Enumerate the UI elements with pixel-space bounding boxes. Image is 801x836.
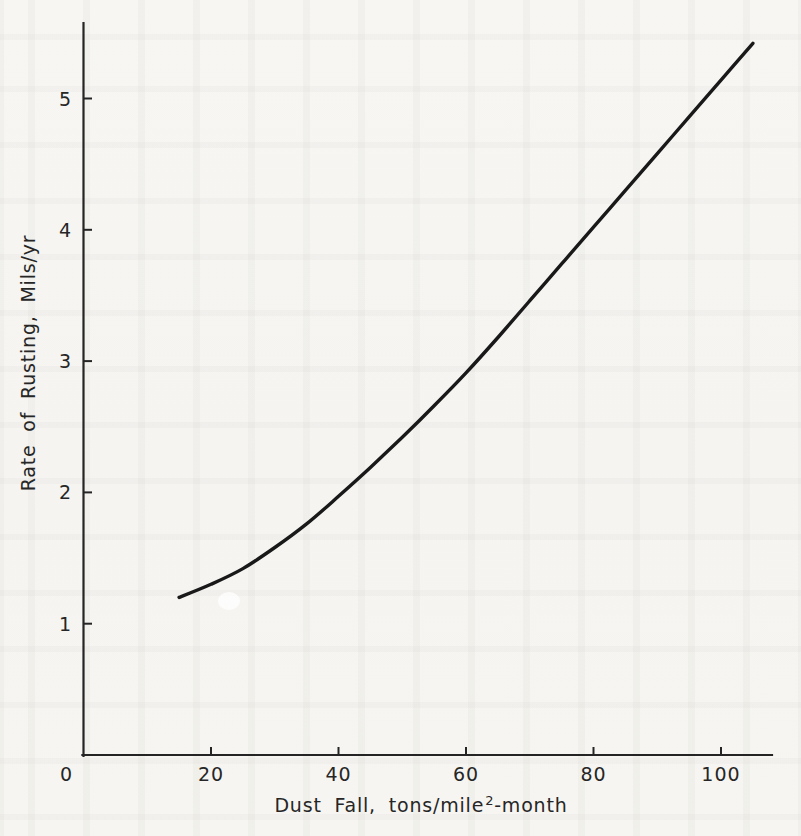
x-tick-label: 60 [453,763,479,785]
x-tick-label: 40 [325,763,351,785]
y-tick-label: 2 [59,481,72,503]
x-axis-ticks: 020406080100 [60,747,741,785]
x-axis-title-suffix: -month [494,794,567,816]
y-tick-label: 4 [59,219,72,241]
data-series [179,43,753,597]
rusting-rate-curve [179,43,753,597]
x-axis-title-text: Dust Fall, tons/mile [274,794,484,816]
rusting-vs-dustfall-chart: 020406080100 12345 Dust Fall, tons/mile2… [0,0,801,836]
y-tick-label: 1 [59,613,72,635]
y-tick-label: 5 [59,88,72,110]
y-axis-ticks: 12345 [59,88,92,635]
x-axis-title: Dust Fall, tons/mile2-month [274,793,567,816]
x-tick-label: 0 [60,763,73,785]
x-tick-label: 100 [701,763,740,785]
x-tick-label: 20 [198,763,224,785]
x-axis-title-superscript: 2 [485,793,494,808]
x-tick-label: 80 [580,763,606,785]
y-axis-title: Rate of Rusting, Mils/yr [17,235,39,492]
y-tick-label: 3 [59,350,72,372]
scanned-figure-page: 020406080100 12345 Dust Fall, tons/mile2… [0,0,801,836]
